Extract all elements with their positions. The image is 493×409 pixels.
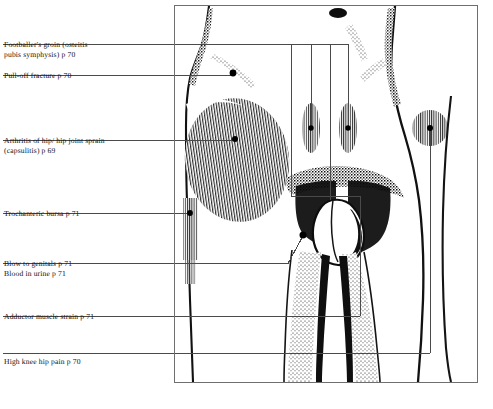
label-high-knee-hip-pain: High knee hip pain p 70 <box>4 357 81 367</box>
label-footballers-groin: Footballer's groin (osteitis pubis symph… <box>4 40 88 59</box>
label-pull-off-fracture: Pull-off fracture p 70 <box>4 71 72 81</box>
injury-diagram-page: Footballer's groin (osteitis pubis symph… <box>0 0 493 409</box>
label-arthritis-of-hip: Arthritis of hip/ hip joint sprain (caps… <box>4 136 105 155</box>
label-blood-in-urine: Blood in urine p 71 <box>4 269 66 279</box>
figure-frame <box>174 5 478 383</box>
label-blow-to-genitals: Blow to genitals p 71 <box>4 259 72 269</box>
label-adductor-muscle-strain: Adductor muscle strain p 71 <box>4 312 94 322</box>
label-trochanteric-bursa: Trochanteric bursa p 71 <box>4 209 80 219</box>
